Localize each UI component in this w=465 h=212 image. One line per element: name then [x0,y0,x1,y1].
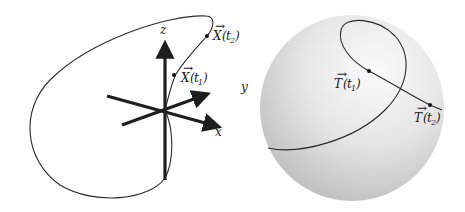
space-curve-panel: z x y → X ( t 1 ) → X ( t 2 ) [30,16,248,198]
x-axis [107,96,216,126]
x-axis-label: x [215,125,222,139]
paren-close: ) [435,111,441,125]
paren-close: ) [202,71,208,85]
paren-close: ) [234,29,240,43]
z-axis-label: z [159,23,167,37]
coordinate-axes [107,46,216,180]
diagram-canvas: z x y → X ( t 1 ) → X ( t 2 ) → [0,0,465,212]
y-axis-label: y [240,80,248,94]
point-t-t1 [367,69,371,73]
label-main: X [212,29,222,43]
point-x-t1 [172,73,176,77]
space-curve [30,16,213,198]
point-t-t2 [428,103,432,107]
label-main: X [180,71,190,85]
tangent-sphere-panel: → T ( t 1 ) → T ( t 2 ) [260,15,444,201]
paren-close: ) [355,77,361,91]
label-main: T [414,111,423,125]
label-main: T [334,77,343,91]
label-x-t2: → X ( t 2 ) [212,19,240,45]
label-x-t1: → X ( t 1 ) [180,61,208,87]
point-x-t2 [205,34,209,38]
